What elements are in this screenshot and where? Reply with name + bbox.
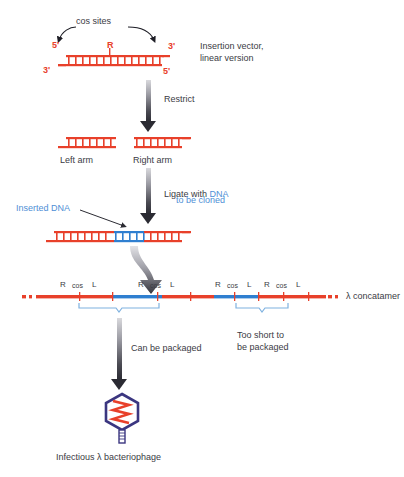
phage-caption: Infectious λ bacteriophage <box>56 452 161 463</box>
recombinant-dna <box>44 228 196 246</box>
figure-canvas: cos sites 5' 3' 3' 5' R <box>0 0 404 477</box>
ligate-arrow-shaft <box>146 168 151 214</box>
restrict-label: Restrict <box>164 94 195 105</box>
restrict-arrow-shaft <box>146 80 151 122</box>
cos-site-arrows <box>50 20 180 48</box>
concatamer-site-label: cos <box>150 280 161 291</box>
too-short-bracket <box>235 303 289 313</box>
right-arm-label: Right arm <box>133 155 172 166</box>
concatamer-site-label: R <box>215 279 221 290</box>
can-be-packaged-bracket <box>78 303 160 313</box>
concatamer-site-label: L <box>296 279 300 290</box>
concatamer-site-label: R <box>138 279 144 290</box>
concatamer-site-label: L <box>170 279 174 290</box>
concatamer-site-labels: R cos L R cos L R cos L R cos L <box>0 279 404 293</box>
five-prime-left-label: 5' <box>52 40 59 51</box>
insertion-vector-caption-line1: Insertion vector, <box>200 41 264 52</box>
lambda-bacteriophage-icon <box>100 392 144 444</box>
concatamer-site-label: L <box>92 279 96 290</box>
inserted-dna-label: Inserted DNA <box>16 203 70 214</box>
insertion-vector-dna <box>56 52 176 70</box>
right-arm-dna <box>132 134 194 152</box>
ligate-label-line2: to be cloned <box>176 195 225 206</box>
concatamer-site-label: cos <box>72 280 83 291</box>
three-prime-right-label: 3' <box>168 41 175 52</box>
too-short-label-line1: Too short to <box>237 330 284 341</box>
packaging-arrow-head <box>111 379 127 390</box>
concatamer-site-label: R <box>60 279 66 290</box>
concatamer-site-label: cos <box>276 280 287 291</box>
restrict-arrow-head <box>140 121 156 132</box>
concatamer-site-label: R <box>264 279 270 290</box>
can-be-packaged-label: Can be packaged <box>131 343 202 354</box>
three-prime-left-label: 3' <box>43 65 50 76</box>
lambda-concatamer-dna <box>22 292 342 302</box>
ligate-arrow-head <box>140 213 156 224</box>
concatamer-site-label: L <box>247 279 251 290</box>
packaging-arrow-shaft <box>117 318 122 380</box>
insertion-vector-caption-line2: linear version <box>200 53 254 64</box>
too-short-label-line2: be packaged <box>237 342 289 353</box>
left-arm-label: Left arm <box>60 155 93 166</box>
concatamer-site-label: cos <box>227 280 238 291</box>
concatamer-name-label: λ concatamer <box>346 291 400 302</box>
left-arm-dna <box>56 134 118 152</box>
